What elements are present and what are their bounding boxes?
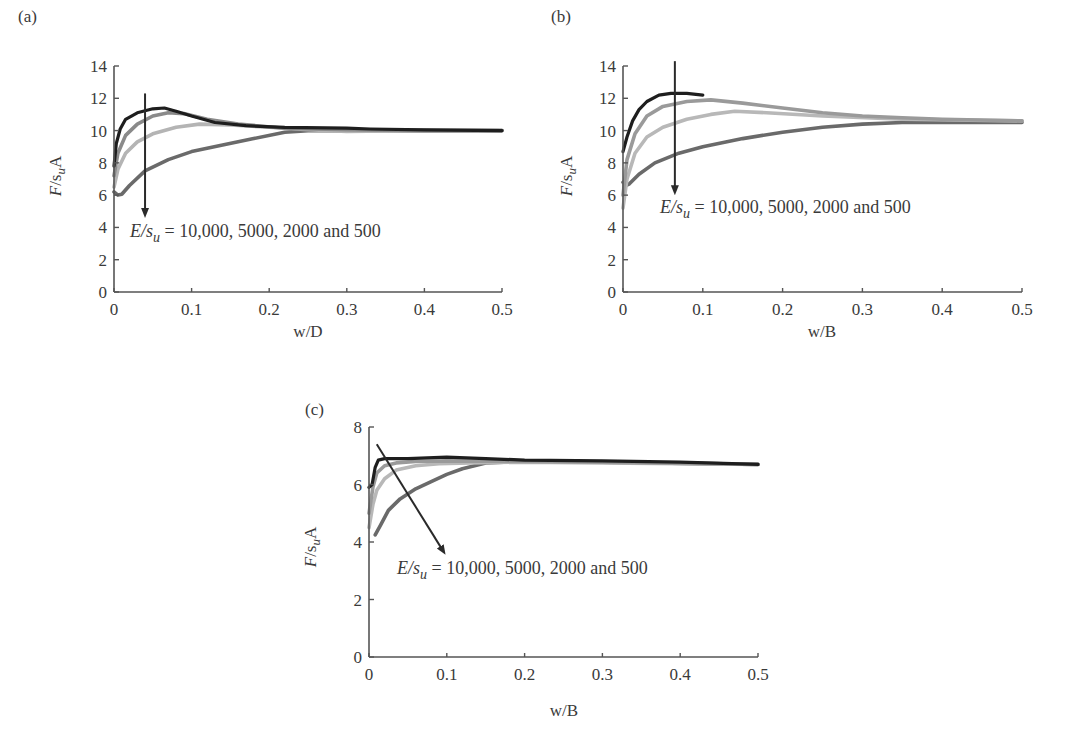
x-tick-label: 0.1 <box>436 665 457 684</box>
y-tick-label: 0 <box>608 283 617 302</box>
x-tick-label: 0.2 <box>514 665 535 684</box>
y-tick-label: 4 <box>608 218 617 237</box>
panel-b: (b) 00.10.20.30.40.502468101214 E/su = 1… <box>551 7 1033 341</box>
panel-a-curves <box>114 108 502 195</box>
curve-e-su-500 <box>375 462 758 535</box>
curve-e-su-5000 <box>369 461 758 513</box>
y-tick-label: 2 <box>354 591 363 610</box>
panel-c-x-axis-label: w/B <box>550 701 578 720</box>
x-tick-label: 0.3 <box>336 300 357 319</box>
x-tick-label: 0 <box>110 300 119 319</box>
panel-a-x-axis-label: w/D <box>293 322 322 341</box>
panel-label-b: (b) <box>551 7 571 26</box>
curve-e-su-500 <box>623 123 1022 186</box>
curve-e-su-5000 <box>114 113 502 176</box>
svg-text:F/suA: F/suA <box>301 526 323 568</box>
svg-text:F/suA: F/suA <box>46 155 68 197</box>
panel-a-y-axis-label: F/suA <box>46 155 68 197</box>
panel-b-x-axis-label: w/B <box>808 322 836 341</box>
panel-a-annotation: E/su = 10,000, 5000, 2000 and 500 <box>129 221 381 245</box>
x-tick-label: 0.5 <box>747 665 768 684</box>
y-tick-label: 0 <box>354 648 363 667</box>
y-tick-label: 8 <box>354 418 363 437</box>
y-tick-label: 6 <box>99 186 108 205</box>
x-tick-label: 0.1 <box>692 300 713 319</box>
y-tick-label: 6 <box>608 186 617 205</box>
curve-e-su-2000 <box>369 462 758 527</box>
panel-c: (c) 00.10.20.30.40.502468 E/su = 10,000,… <box>301 400 769 720</box>
panel-b-axes: 00.10.20.30.40.502468101214 <box>599 57 1033 319</box>
x-tick-label: 0.2 <box>259 300 280 319</box>
y-tick-label: 10 <box>90 122 107 141</box>
x-tick-label: 0.4 <box>414 300 436 319</box>
x-tick-label: 0.3 <box>592 665 613 684</box>
y-tick-label: 0 <box>99 283 108 302</box>
y-tick-label: 4 <box>99 218 108 237</box>
x-tick-label: 0.5 <box>1011 300 1032 319</box>
figure-canvas: (a) 00.10.20.30.40.502468101214 E/su = 1… <box>0 0 1073 756</box>
x-tick-label: 0 <box>365 665 374 684</box>
y-tick-label: 10 <box>599 122 616 141</box>
svg-text:F/suA: F/suA <box>557 155 579 197</box>
panel-a: (a) 00.10.20.30.40.502468101214 E/su = 1… <box>18 7 513 341</box>
y-tick-label: 12 <box>599 89 616 108</box>
y-tick-label: 2 <box>99 251 108 270</box>
y-tick-label: 8 <box>608 154 617 173</box>
panel-c-y-axis-label: F/suA <box>301 526 323 568</box>
curve-e-su-2000 <box>114 124 502 187</box>
panel-b-annotation: E/su = 10,000, 5000, 2000 and 500 <box>659 197 911 221</box>
x-tick-label: 0.5 <box>491 300 512 319</box>
panel-a-axes: 00.10.20.30.40.502468101214 <box>90 57 513 319</box>
curve-e-su-5000 <box>623 100 1022 195</box>
x-tick-label: 0.1 <box>181 300 202 319</box>
panel-b-curves <box>623 93 1022 208</box>
y-tick-label: 8 <box>99 154 108 173</box>
x-tick-label: 0 <box>619 300 628 319</box>
x-tick-label: 0.4 <box>670 665 692 684</box>
x-tick-label: 0.4 <box>932 300 954 319</box>
panel-b-y-axis-label: F/suA <box>557 155 579 197</box>
y-tick-label: 4 <box>354 533 363 552</box>
y-tick-label: 12 <box>90 89 107 108</box>
y-tick-label: 14 <box>599 57 617 76</box>
x-tick-label: 0.3 <box>852 300 873 319</box>
y-tick-label: 6 <box>354 476 363 495</box>
panel-c-annotation: E/su = 10,000, 5000, 2000 and 500 <box>396 558 648 582</box>
panel-c-curves <box>369 457 758 535</box>
curve-e-su-500 <box>114 131 502 196</box>
panel-label-a: (a) <box>18 7 37 26</box>
y-tick-label: 2 <box>608 251 617 270</box>
x-tick-label: 0.2 <box>772 300 793 319</box>
panel-label-c: (c) <box>305 400 324 419</box>
y-tick-label: 14 <box>90 57 108 76</box>
